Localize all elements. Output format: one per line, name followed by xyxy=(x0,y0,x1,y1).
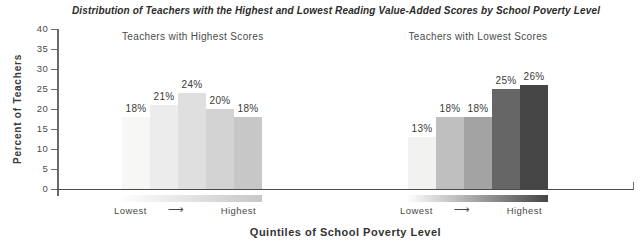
bar xyxy=(206,109,234,189)
bar xyxy=(122,117,150,189)
x-axis-end-tick xyxy=(633,182,635,190)
y-axis-tick xyxy=(51,169,57,170)
y-axis-tick xyxy=(51,69,57,70)
y-axis-tick-label: 15 xyxy=(18,123,48,134)
y-axis-tick-label: 0 xyxy=(18,183,48,194)
quintile-gradient-strip xyxy=(408,195,548,202)
y-axis-tick xyxy=(51,149,57,150)
bar xyxy=(150,105,178,189)
bar-value-label: 18% xyxy=(228,103,268,114)
axis-start-label: Lowest xyxy=(114,205,147,216)
y-axis-tick-label: 10 xyxy=(18,143,48,154)
y-axis-tick-label: 20 xyxy=(18,103,48,114)
x-axis-title: Quintiles of School Poverty Level xyxy=(57,226,634,238)
y-axis-tick-label: 35 xyxy=(18,43,48,54)
quintile-gradient-strip xyxy=(122,195,262,202)
group-title: Teachers with Highest Scores xyxy=(122,31,262,42)
bar xyxy=(178,93,206,189)
y-axis-tick xyxy=(51,189,57,190)
y-axis-line xyxy=(57,29,59,196)
bar xyxy=(436,117,464,189)
chart-title: Distribution of Teachers with the Highes… xyxy=(30,5,642,16)
bar xyxy=(234,117,262,189)
y-axis-tick xyxy=(51,109,57,110)
chart: Distribution of Teachers with the Highes… xyxy=(0,0,642,252)
y-axis-tick xyxy=(51,49,57,50)
axis-start-label: Lowest xyxy=(400,205,433,216)
y-axis-tick-label: 5 xyxy=(18,163,48,174)
bar xyxy=(492,89,520,189)
right-arrow-icon: ⟶ xyxy=(454,203,470,216)
axis-end-label: Highest xyxy=(486,205,542,216)
bar-value-label: 24% xyxy=(172,79,212,90)
bar xyxy=(408,137,436,189)
bar xyxy=(520,85,548,189)
bar-value-label: 26% xyxy=(514,71,554,82)
y-axis-tick-label: 30 xyxy=(18,63,48,74)
y-axis-tick-label: 25 xyxy=(18,83,48,94)
bar xyxy=(464,117,492,189)
y-axis-tick xyxy=(51,89,57,90)
y-axis-tick xyxy=(51,29,57,30)
y-axis-tick-label: 40 xyxy=(18,23,48,34)
y-axis-tick xyxy=(51,129,57,130)
axis-end-label: Highest xyxy=(200,205,256,216)
group-title: Teachers with Lowest Scores xyxy=(408,31,548,42)
right-arrow-icon: ⟶ xyxy=(168,203,184,216)
